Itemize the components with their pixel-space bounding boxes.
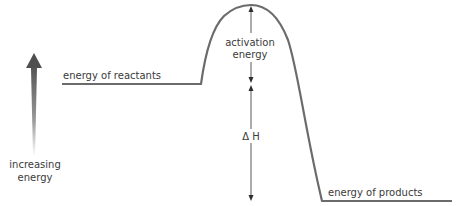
products-label: energy of products xyxy=(328,187,423,198)
activation-energy-label-line1: activation xyxy=(225,37,275,48)
activation-energy-label-line2: energy xyxy=(233,49,268,60)
axis-label-line1: increasing xyxy=(9,159,60,170)
reactants-label: energy of reactants xyxy=(63,70,161,81)
energy-profile-diagram: increasing energy energy of reactants en… xyxy=(0,0,458,206)
reaction-energy-curve xyxy=(62,5,452,201)
increasing-energy-arrow-icon xyxy=(26,53,42,156)
delta-h-label: Δ H xyxy=(242,131,260,142)
axis-label-line2: energy xyxy=(18,172,53,183)
